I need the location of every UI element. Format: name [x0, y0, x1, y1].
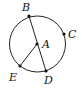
segment-ae	[20, 44, 37, 66]
point-e	[18, 64, 21, 67]
point-d	[44, 69, 47, 72]
label-c: C	[68, 28, 77, 41]
point-a	[35, 42, 38, 45]
point-c	[62, 32, 65, 35]
label-e: E	[8, 71, 17, 84]
point-b	[27, 14, 30, 17]
circle-diagram: A B C D E	[0, 0, 82, 91]
label-a: A	[41, 38, 50, 51]
label-d: D	[43, 74, 53, 87]
label-b: B	[21, 1, 30, 14]
